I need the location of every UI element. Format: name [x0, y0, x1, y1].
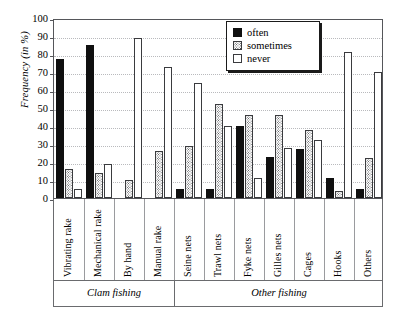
category-label-vibrating-rake: Vibrating rake [62, 218, 73, 277]
y-axis-tick-90: 90 [22, 32, 48, 42]
legend-swatch-sometimes [233, 41, 242, 50]
bar-sometimes [155, 151, 163, 198]
bar-never [344, 52, 352, 198]
category-label-band: Vibrating rakeMechanical rakeBy handManu… [53, 199, 383, 281]
group-label-clam-fishing: Clam fishing [54, 287, 174, 298]
y-axis-tick-0: 0 [22, 194, 48, 204]
bar-sometimes [185, 146, 193, 198]
group-label-other-fishing: Other fishing [174, 287, 384, 298]
y-axis-tick-60: 60 [22, 86, 48, 96]
category-separator [174, 199, 175, 280]
bar-never [164, 67, 172, 198]
category-separator [114, 199, 115, 280]
bar-group [54, 20, 84, 198]
category-separator [144, 199, 145, 280]
bar-never [374, 72, 382, 198]
category-label-mechanical-rake: Mechanical rake [92, 209, 103, 277]
bar-often [356, 189, 364, 198]
y-axis-tick-20: 20 [22, 158, 48, 168]
bar-sometimes [365, 158, 373, 198]
bar-sometimes [275, 115, 283, 198]
bar-group [174, 20, 204, 198]
category-separator [354, 199, 355, 280]
bar-group [144, 20, 174, 198]
y-axis-tick-40: 40 [22, 122, 48, 132]
bar-group [84, 20, 114, 198]
category-separator [264, 199, 265, 280]
category-label-hooks: Hooks [332, 250, 343, 277]
legend-label-never: never [247, 53, 270, 64]
bar-sometimes [215, 104, 223, 198]
category-label-others: Others [362, 250, 373, 277]
bar-sometimes [335, 191, 343, 198]
legend-label-often: often [247, 27, 269, 38]
bar-often [206, 189, 214, 198]
category-separator [84, 199, 85, 280]
bar-never [284, 148, 292, 198]
bar-series-container [54, 20, 382, 198]
category-label-gilles-nets: Gilles nets [272, 233, 283, 277]
legend-item-often: often [233, 26, 313, 39]
bar-never [254, 178, 262, 198]
bar-sometimes [65, 169, 73, 198]
category-label-cages: Cages [302, 252, 313, 277]
bar-often [266, 157, 274, 198]
bar-chart: Frequency (in %) 1009080706050403020100 … [0, 0, 394, 321]
bar-often [236, 126, 244, 198]
legend-swatch-often [233, 28, 242, 37]
plot-area [53, 19, 383, 199]
group-label-band: Clam fishingOther fishing [53, 281, 383, 307]
y-axis-tick-50: 50 [22, 104, 48, 114]
bar-never [224, 126, 232, 198]
bar-often [56, 59, 64, 198]
bar-never [194, 83, 202, 198]
legend-item-never: never [233, 52, 313, 65]
bar-often [326, 178, 334, 198]
category-label-manual-rake: Manual rake [152, 226, 163, 277]
bar-group [354, 20, 384, 198]
bar-never [134, 38, 142, 198]
bar-group [114, 20, 144, 198]
legend: oftensometimesnever [226, 21, 320, 71]
category-separator [294, 199, 295, 280]
y-axis-tick-80: 80 [22, 50, 48, 60]
category-label-seine-nets: Seine nets [182, 235, 193, 277]
legend-swatch-never [233, 54, 242, 63]
category-label-trawl-nets: Trawl nets [212, 234, 223, 277]
y-axis-tick-labels: 1009080706050403020100 [22, 0, 48, 321]
bar-never [74, 189, 82, 198]
bar-often [86, 45, 94, 198]
bar-group [324, 20, 354, 198]
bar-never [104, 164, 112, 198]
bar-never [314, 140, 322, 198]
legend-label-sometimes: sometimes [247, 40, 292, 51]
category-label-fyke-nets: Fyke nets [242, 237, 253, 277]
y-axis-tick-30: 30 [22, 140, 48, 150]
y-axis-tick-100: 100 [22, 14, 48, 24]
bar-often [176, 189, 184, 198]
bar-sometimes [95, 173, 103, 198]
category-label-by-hand: By hand [122, 243, 133, 277]
bar-sometimes [305, 130, 313, 198]
bar-often [296, 149, 304, 198]
legend-item-sometimes: sometimes [233, 39, 313, 52]
category-separator [234, 199, 235, 280]
category-separator [324, 199, 325, 280]
y-axis-tick-10: 10 [22, 176, 48, 186]
bar-sometimes [125, 180, 133, 198]
category-separator [204, 199, 205, 280]
bar-sometimes [245, 115, 253, 198]
y-axis-tick-70: 70 [22, 68, 48, 78]
